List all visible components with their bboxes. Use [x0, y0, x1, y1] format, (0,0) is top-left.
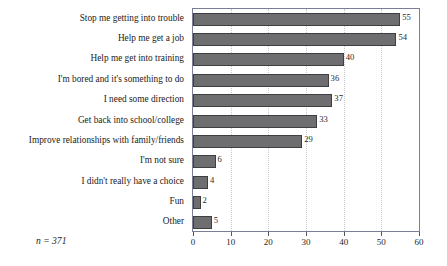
plot-inner	[193, 9, 419, 231]
bar	[193, 13, 400, 26]
bar-value-label: 36	[331, 74, 340, 83]
x-tick-label: 60	[415, 237, 424, 247]
bar	[193, 33, 396, 46]
x-tick	[419, 232, 420, 236]
bar-value-label: 54	[398, 33, 407, 42]
category-label: Help me get into training	[0, 53, 184, 63]
bar	[193, 196, 201, 209]
x-tick-label: 0	[191, 237, 196, 247]
x-tick-label: 50	[377, 237, 386, 247]
x-tick	[231, 232, 232, 236]
bar-value-label: 6	[218, 155, 222, 164]
bar-value-label: 55	[402, 13, 411, 22]
x-tick	[268, 232, 269, 236]
bar-value-label: 29	[304, 135, 313, 144]
x-tick-label: 10	[226, 237, 235, 247]
bar	[193, 74, 329, 87]
category-label: I didn't really have a choice	[0, 176, 184, 186]
category-axis-labels: Stop me getting into troubleHelp me get …	[0, 8, 188, 232]
category-label: I need some direction	[0, 94, 184, 104]
x-tick-label: 40	[339, 237, 348, 247]
x-axis: 0102030405060	[192, 232, 420, 256]
bar-value-label: 5	[214, 216, 218, 225]
category-label: Improve relationships with family/friend…	[0, 135, 184, 145]
bar-value-label: 37	[334, 94, 343, 103]
x-tick-label: 20	[264, 237, 273, 247]
bar-value-label: 33	[319, 115, 328, 124]
category-label: Help me get a job	[0, 33, 184, 43]
bar	[193, 94, 332, 107]
bar	[193, 155, 216, 168]
bar-value-label: 2	[203, 196, 207, 205]
category-label: Other	[0, 216, 184, 226]
bar	[193, 53, 344, 66]
plot-area	[192, 8, 420, 232]
x-tick	[193, 232, 194, 236]
x-tick	[381, 232, 382, 236]
x-tick	[344, 232, 345, 236]
bar	[193, 216, 212, 229]
bar-value-label: 4	[210, 176, 214, 185]
bar	[193, 135, 302, 148]
category-label: Fun	[0, 196, 184, 206]
bar-value-label: 40	[346, 53, 355, 62]
category-label: I'm not sure	[0, 155, 184, 165]
bar	[193, 176, 208, 189]
x-tick	[306, 232, 307, 236]
x-tick-label: 30	[302, 237, 311, 247]
category-label: I'm bored and it's something to do	[0, 74, 184, 84]
bar	[193, 115, 317, 128]
bar-chart: Stop me getting into troubleHelp me get …	[0, 0, 447, 266]
category-label: Stop me getting into trouble	[0, 13, 184, 23]
category-label: Get back into school/college	[0, 115, 184, 125]
sample-size-annotation: n = 371	[36, 235, 66, 246]
